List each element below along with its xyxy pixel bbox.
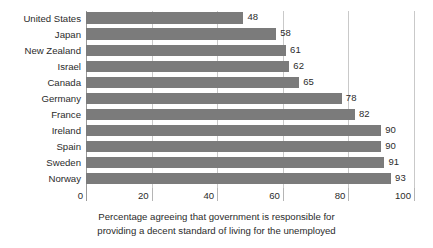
bar xyxy=(86,77,299,88)
caption-line-1: Percentage agreeing that government is r… xyxy=(0,210,433,224)
bar-value-label: 90 xyxy=(385,138,396,154)
chart-caption: Percentage agreeing that government is r… xyxy=(0,210,433,237)
bar-row: 61 xyxy=(86,43,414,59)
bar-value-label: 90 xyxy=(385,122,396,138)
bar-value-label: 93 xyxy=(395,170,406,186)
bar xyxy=(86,157,384,168)
bar xyxy=(86,109,355,120)
x-tick-label-0: 0 xyxy=(78,189,86,203)
x-tick-60 xyxy=(283,188,284,201)
bar xyxy=(86,141,381,152)
bar xyxy=(86,173,391,184)
bar-row: 90 xyxy=(86,124,414,140)
x-tick-40 xyxy=(217,188,218,201)
category-label-canada: Canada xyxy=(47,75,81,91)
bar-row: 91 xyxy=(86,156,414,172)
x-tick-20 xyxy=(152,188,153,201)
bar-value-label: 65 xyxy=(303,74,314,90)
bar xyxy=(86,12,243,23)
bar-row: 58 xyxy=(86,27,414,43)
bar-row: 93 xyxy=(86,172,414,188)
category-label-france: France xyxy=(51,107,81,123)
gridline-100 xyxy=(414,11,415,188)
bar-value-label: 82 xyxy=(359,106,370,122)
bar-row: 62 xyxy=(86,59,414,75)
bar-value-label: 62 xyxy=(293,58,304,74)
category-label-japan: Japan xyxy=(55,27,81,43)
bar-value-label: 61 xyxy=(290,42,301,58)
x-tick-0 xyxy=(86,188,87,201)
bar-row: 82 xyxy=(86,108,414,124)
bar xyxy=(86,61,289,72)
category-label-ireland: Ireland xyxy=(52,123,81,139)
bar-value-label: 78 xyxy=(346,90,357,106)
bar-chart: United StatesJapanNew ZealandIsraelCanad… xyxy=(0,0,433,248)
bar xyxy=(86,93,342,104)
bar xyxy=(86,28,276,39)
caption-line-2: providing a decent standard of living fo… xyxy=(0,224,433,238)
bar-row: 90 xyxy=(86,140,414,156)
x-tick-label-40: 40 xyxy=(204,189,218,203)
category-label-united-states: United States xyxy=(23,11,81,27)
category-label-norway: Norway xyxy=(48,171,81,187)
category-label-spain: Spain xyxy=(56,139,81,155)
x-tick-100 xyxy=(414,188,415,201)
x-tick-label-80: 80 xyxy=(335,189,349,203)
bar-row: 48 xyxy=(86,11,414,27)
bar xyxy=(86,125,381,136)
category-label-new-zealand: New Zealand xyxy=(24,43,81,59)
bar-value-label: 91 xyxy=(388,154,399,170)
plot-area: 4858616265788290909193 xyxy=(86,11,414,188)
bar-value-label: 58 xyxy=(280,25,291,41)
x-tick-label-100: 100 xyxy=(395,189,414,203)
bar xyxy=(86,45,286,56)
bar-value-label: 48 xyxy=(247,9,258,25)
category-label-germany: Germany xyxy=(42,91,81,107)
x-tick-80 xyxy=(348,188,349,201)
x-tick-label-20: 20 xyxy=(138,189,152,203)
x-tick-label-60: 60 xyxy=(269,189,283,203)
category-label-israel: Israel xyxy=(58,59,81,75)
bar-row: 65 xyxy=(86,75,414,91)
category-label-sweden: Sweden xyxy=(46,155,81,171)
